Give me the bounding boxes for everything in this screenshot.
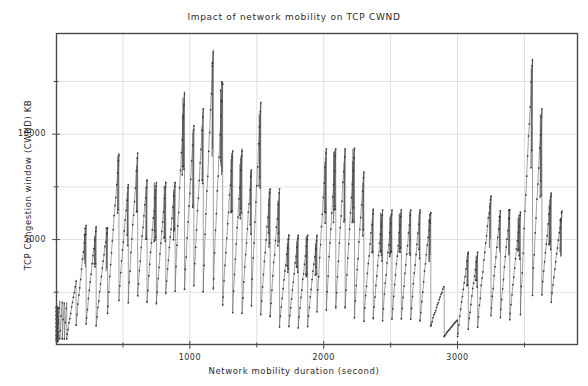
x-tick-label: 1000	[165, 353, 215, 362]
plot-area	[0, 0, 588, 386]
y-tick-label: 10000	[6, 129, 46, 138]
x-tick-label: 2000	[299, 353, 349, 362]
y-tick-label: 5000	[6, 235, 46, 244]
chart-figure: Impact of network mobility on TCP CWND T…	[0, 0, 588, 386]
cwnd-line	[57, 50, 562, 340]
cwnd-markers	[57, 52, 563, 340]
x-tick-label: 3000	[433, 353, 483, 362]
